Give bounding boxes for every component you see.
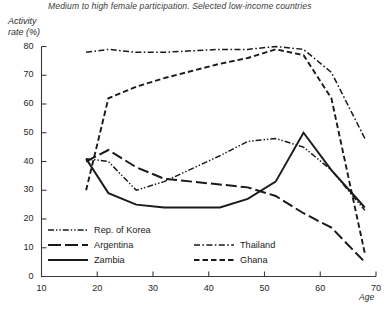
legend-column-right: Thailand Ghana [194, 237, 275, 267]
y-tick-label: 30 [12, 184, 34, 194]
x-tick-label: 30 [140, 283, 166, 293]
x-tick-label: 60 [307, 283, 333, 293]
x-axis-label: Age [359, 292, 374, 302]
series-line-zambia [86, 133, 365, 208]
x-tick-label: 40 [196, 283, 222, 293]
x-tick-label: 20 [84, 283, 110, 293]
chart-legend: Rep. of Korea Argentina Zambia Thaila [48, 222, 298, 268]
legend-swatch-rep-of-korea [48, 225, 88, 235]
y-tick-label: 80 [12, 41, 34, 51]
legend-label-thailand: Thailand [240, 240, 275, 250]
chart-page: Medium to high female participation. Sel… [0, 0, 391, 315]
legend-item-thailand: Thailand [194, 237, 275, 252]
legend-item-rep-of-korea: Rep. of Korea [48, 222, 151, 237]
x-tick-label: 10 [29, 283, 55, 293]
x-tick-label: 50 [252, 283, 278, 293]
y-tick-label: 70 [12, 69, 34, 79]
legend-item-argentina: Argentina [48, 237, 151, 252]
legend-swatch-argentina [48, 240, 88, 250]
legend-item-zambia: Zambia [48, 252, 151, 267]
legend-swatch-thailand [194, 240, 234, 250]
legend-label-argentina: Argentina [94, 240, 133, 250]
legend-label-ghana: Ghana [240, 255, 268, 265]
y-tick-label: 0 [12, 271, 34, 281]
legend-swatch-zambia [48, 255, 88, 265]
y-tick-label: 20 [12, 213, 34, 223]
y-tick-label: 10 [12, 242, 34, 252]
y-tick-label: 50 [12, 127, 34, 137]
legend-label-zambia: Zambia [94, 255, 125, 265]
legend-column-left: Rep. of Korea Argentina Zambia [48, 222, 151, 267]
legend-item-ghana: Ghana [194, 252, 275, 267]
legend-label-rep-of-korea: Rep. of Korea [94, 225, 151, 235]
series-line-rep-of-korea [86, 139, 365, 211]
x-tick-label: 70 [363, 283, 389, 293]
series-line-thailand [86, 47, 365, 139]
legend-swatch-ghana [194, 255, 234, 265]
y-tick-label: 40 [12, 156, 34, 166]
y-tick-label: 60 [12, 98, 34, 108]
